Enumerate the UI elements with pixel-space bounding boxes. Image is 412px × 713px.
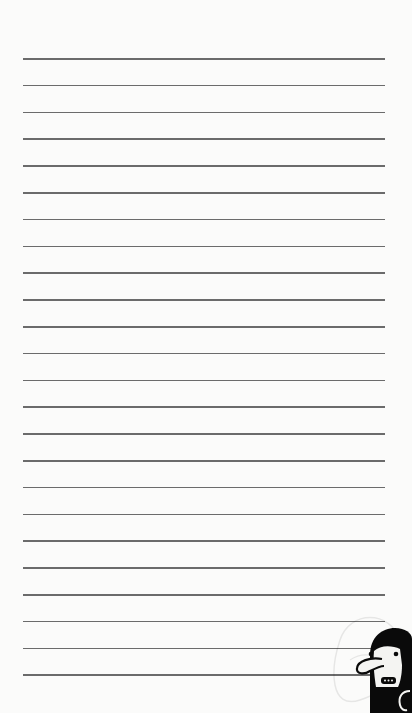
ruled-line [23,58,385,60]
ruled-line [23,326,385,328]
ruled-line [23,85,385,87]
ruled-line [23,192,385,194]
ruled-line [23,540,385,542]
ruled-line [23,380,385,382]
ruled-line [23,299,385,301]
ruled-line [23,112,385,114]
ruled-line [23,514,385,516]
ruled-line [23,353,385,355]
ruled-line [23,460,385,462]
ruled-line [23,246,385,248]
hooded-character-icon [350,625,412,713]
ruled-line [23,594,385,596]
notebook-page [0,0,412,713]
ruled-line [23,487,385,489]
ruled-line [23,433,385,435]
ruled-line [23,272,385,274]
ruled-line [23,219,385,221]
ruled-line [23,406,385,408]
ruled-line [23,138,385,140]
ruled-line [23,165,385,167]
ruled-line [23,567,385,569]
